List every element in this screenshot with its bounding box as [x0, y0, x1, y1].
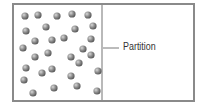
- particle: [68, 10, 75, 17]
- particle: [60, 34, 67, 41]
- particle: [31, 37, 38, 44]
- partition-diagram: [0, 0, 203, 109]
- particle: [71, 25, 78, 32]
- particle: [50, 84, 57, 91]
- particle: [94, 67, 101, 74]
- particle: [21, 12, 28, 19]
- particle: [42, 23, 49, 30]
- particle: [22, 27, 29, 34]
- particle: [48, 36, 55, 43]
- particle: [87, 51, 94, 58]
- particle: [75, 59, 82, 66]
- particle: [67, 53, 74, 60]
- particle: [67, 72, 74, 79]
- particle: [38, 69, 45, 76]
- particle: [73, 82, 80, 89]
- particle: [48, 65, 55, 72]
- particle: [89, 22, 96, 29]
- particle: [79, 45, 86, 52]
- particle: [93, 87, 100, 94]
- particle: [31, 53, 38, 60]
- partition-label: Partition: [123, 40, 156, 52]
- particle: [22, 64, 29, 71]
- particle: [84, 11, 91, 18]
- particle: [29, 89, 36, 96]
- container-box: [13, 4, 194, 101]
- particle: [34, 11, 41, 18]
- particle: [53, 12, 60, 19]
- particle: [44, 49, 51, 56]
- particle: [19, 44, 26, 51]
- particle: [87, 35, 94, 42]
- particle: [20, 76, 27, 83]
